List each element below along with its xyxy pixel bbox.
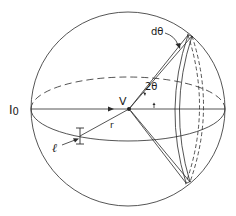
two-theta-arrow-icon — [143, 92, 146, 96]
label-radius: r — [110, 120, 114, 130]
equator-back-dashed — [31, 77, 225, 109]
two-theta-tick-arrow-icon — [153, 103, 156, 106]
dtheta-pointer-line — [165, 33, 178, 45]
length-pointer-line — [62, 140, 75, 145]
cone-lower-line-2 — [131, 111, 190, 182]
label-length: ℓ — [52, 141, 57, 155]
label-angular-width: dθ — [151, 26, 163, 37]
equator-front — [31, 109, 225, 141]
radius-line — [80, 109, 129, 136]
beam-arrow-icon — [108, 107, 114, 112]
label-volume: V — [119, 95, 127, 108]
scattering-sphere-diagram: I0 V r ℓ 2θ dθ — [0, 0, 236, 216]
label-scattering-angle: 2θ — [145, 81, 157, 92]
label-incident-intensity: I0 — [9, 103, 19, 117]
